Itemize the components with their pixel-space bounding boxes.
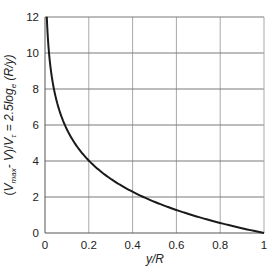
y-tick-label: 4 — [33, 155, 40, 167]
y-tick-label: 6 — [33, 119, 39, 131]
y-tick-label: 8 — [33, 83, 39, 95]
x-axis-label: y/R — [145, 252, 164, 266]
x-tick-label: 0.2 — [81, 239, 97, 251]
x-tick-label: 0 — [42, 239, 48, 251]
horizontal-gridlines — [45, 17, 264, 197]
y-axis-label: (Vmax- V)/Vτ = 2.5loge (R/y) — [2, 54, 18, 195]
chart: 00.20.40.60.81 024681012 y/R (Vmax- V)/V… — [0, 0, 274, 272]
x-tick-label: 0.8 — [212, 239, 228, 251]
x-tick-label: 0.4 — [125, 239, 142, 251]
y-tick-labels: 024681012 — [26, 11, 39, 239]
x-tick-labels: 00.20.40.60.81 — [42, 239, 267, 251]
y-tick-label: 10 — [26, 47, 39, 59]
x-tick-label: 1 — [261, 239, 267, 251]
y-tick-label: 0 — [33, 227, 39, 239]
x-tick-label: 0.6 — [168, 239, 184, 251]
y-tick-label: 12 — [26, 11, 39, 23]
y-tick-label: 2 — [33, 191, 39, 203]
